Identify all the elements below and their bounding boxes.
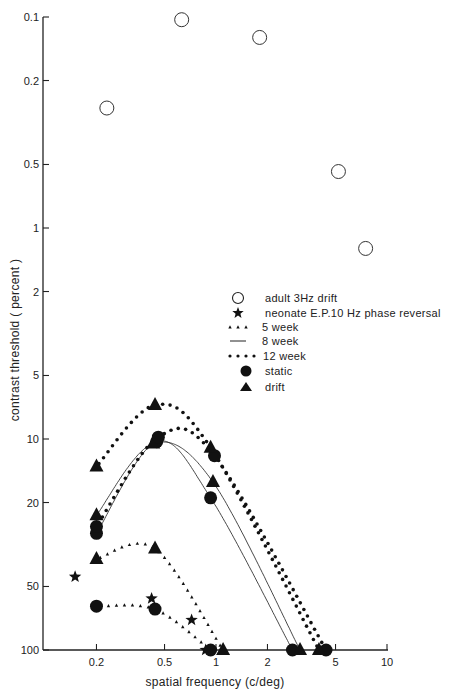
curve-dot xyxy=(125,426,129,430)
curve-dot xyxy=(200,434,204,438)
curve-dot xyxy=(140,410,144,414)
filled-triangle-marker xyxy=(89,459,103,472)
curve-dot xyxy=(115,438,119,442)
curve-dot xyxy=(235,491,239,495)
curve-small-triangle xyxy=(161,611,164,614)
curve-dot xyxy=(176,427,180,431)
legend-label-8-week: 8 week xyxy=(262,335,299,347)
curve-dot xyxy=(175,406,179,410)
curve-small-triangle xyxy=(113,549,116,552)
filled-circle-marker xyxy=(90,520,103,533)
curve-small-triangle xyxy=(206,623,209,626)
curve-dot xyxy=(136,458,140,462)
curve-dot xyxy=(291,588,295,592)
curve-small-triangle xyxy=(136,542,139,545)
legend-small-triangle-line-icon xyxy=(228,325,247,328)
curve-small-triangle xyxy=(182,582,185,585)
y-tick-label: 2 xyxy=(33,286,39,298)
curve-small-triangle xyxy=(199,640,202,643)
series-markers xyxy=(69,13,373,657)
curve-dot xyxy=(205,440,209,444)
curve-dot xyxy=(295,594,299,598)
curve-dot xyxy=(140,452,144,456)
open-circle-marker xyxy=(359,241,373,255)
filled-circle-marker xyxy=(90,600,103,613)
x-tick-label: 5 xyxy=(332,656,338,668)
curve-dot xyxy=(277,561,281,565)
curve-dot xyxy=(112,496,116,500)
x-tick-label: 0.5 xyxy=(157,656,172,668)
curve-small-triangle xyxy=(139,604,142,607)
curve-dot xyxy=(284,584,288,588)
y-tick-label: 0.2 xyxy=(24,75,39,87)
curve-dot xyxy=(281,578,285,582)
legend-label-drift: drift xyxy=(265,381,285,393)
curve-small-triangle xyxy=(175,620,178,623)
legend-label-neonate: neonate E.P.10 Hz phase reversal xyxy=(265,307,441,319)
curve-dot xyxy=(260,538,264,542)
curve-dot xyxy=(257,531,261,535)
curve-dot xyxy=(221,465,225,469)
curve-dot xyxy=(264,544,268,548)
axes: 0.10.20.51251020501000.20.512510 xyxy=(21,11,393,668)
curve-dot xyxy=(274,564,278,568)
y-tick-label: 100 xyxy=(21,644,39,656)
curve-dot xyxy=(266,542,270,546)
curve-dot xyxy=(161,402,165,406)
y-tick-label: 1 xyxy=(33,222,39,234)
curve-dot xyxy=(190,431,194,435)
legend-label-static: static xyxy=(265,365,293,377)
curve-small-triangle xyxy=(177,575,180,578)
curve-dot xyxy=(288,581,292,585)
curve-dot xyxy=(313,627,317,631)
curve-dot xyxy=(246,511,250,515)
curve-dot xyxy=(284,575,288,579)
curve-dot xyxy=(128,470,132,474)
curve-small-triangle xyxy=(186,588,189,591)
curve-dot xyxy=(291,598,295,602)
legend-open-circle-icon xyxy=(233,293,244,304)
curve-dot xyxy=(243,504,247,508)
curve-small-triangle xyxy=(210,630,213,633)
curve-dot xyxy=(120,432,124,436)
curve-small-triangle xyxy=(190,595,193,598)
curve-dot xyxy=(196,436,200,440)
filled-circle-marker xyxy=(152,431,165,444)
curve-dot xyxy=(184,428,188,432)
curve-dot xyxy=(288,591,292,595)
filled-circle-marker xyxy=(204,644,217,657)
curve-small-triangle xyxy=(123,603,126,606)
curve-small-triangle xyxy=(202,616,205,619)
curve-dot xyxy=(294,604,298,608)
curve-dot xyxy=(302,608,306,612)
filled-circle-marker xyxy=(149,603,162,616)
curve-dot xyxy=(181,411,185,415)
curve-small-triangle xyxy=(214,637,217,640)
curve-dot xyxy=(308,631,312,635)
curve-solid xyxy=(97,442,301,650)
curve-dot xyxy=(299,601,303,605)
legend-filled-circle-icon xyxy=(241,366,252,377)
filled-triangle-marker xyxy=(89,551,103,564)
curve-dot xyxy=(228,478,232,482)
legend-filled-triangle-icon xyxy=(240,382,252,391)
curve-dot xyxy=(309,621,313,625)
curve-dot xyxy=(108,502,112,506)
curve-small-triangle xyxy=(106,552,109,555)
star-marker xyxy=(185,613,197,625)
curve-dot xyxy=(320,641,324,645)
legend-label-adult: adult 3Hz drift xyxy=(265,292,337,304)
x-tick-label: 10 xyxy=(381,656,393,668)
y-tick-label: 20 xyxy=(27,497,39,509)
y-tick-label: 0.1 xyxy=(24,11,39,23)
legend-star-icon xyxy=(232,307,243,318)
curve-small-triangle xyxy=(107,604,110,607)
curve-dot xyxy=(232,485,236,489)
y-tick-label: 5 xyxy=(33,369,39,381)
star-marker xyxy=(145,592,157,604)
curve-dot xyxy=(186,416,190,420)
x-tick-label: 0.2 xyxy=(89,656,104,668)
y-tick-label: 0.5 xyxy=(24,158,39,170)
x-axis-title: spatial frequency (c/deg) xyxy=(146,675,285,689)
curve-dot xyxy=(111,444,115,448)
